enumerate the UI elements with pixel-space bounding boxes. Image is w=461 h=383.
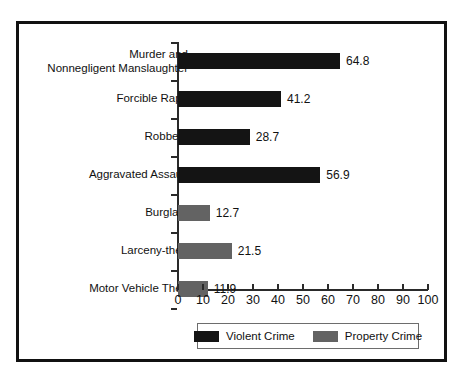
x-axis-tick bbox=[202, 284, 204, 290]
bar-category-label: Aggravated Assault bbox=[0, 168, 188, 182]
x-axis-tick bbox=[327, 284, 329, 290]
y-axis-tick bbox=[171, 80, 177, 82]
x-axis-tick bbox=[302, 284, 304, 290]
y-axis-tick bbox=[171, 232, 177, 234]
x-axis-tick bbox=[277, 284, 279, 290]
x-axis-tick bbox=[227, 284, 229, 290]
bar-row: Robbery28.7 bbox=[19, 118, 444, 156]
x-axis-tick bbox=[427, 284, 429, 290]
bar-category-label: Forcible Rape bbox=[0, 92, 188, 106]
bar-value-label: 56.9 bbox=[326, 168, 349, 182]
x-axis-tick bbox=[177, 284, 179, 290]
bar-category-label: Murder and Nonnegligent Manslaughter bbox=[0, 48, 188, 75]
bar-row: Forcible Rape41.2 bbox=[19, 80, 444, 118]
bar-violent bbox=[178, 53, 340, 69]
y-axis-tick bbox=[171, 118, 177, 120]
bar-category-label: Burglary bbox=[0, 206, 188, 220]
bar-value-label: 12.7 bbox=[216, 206, 239, 220]
chart-frame: Murder and Nonnegligent Manslaughter64.8… bbox=[16, 21, 447, 362]
bar-category-label: Larceny-theft bbox=[0, 244, 188, 258]
legend-swatch-icon bbox=[194, 331, 219, 342]
bar-category-label: Motor Vehicle Theft bbox=[0, 282, 188, 296]
bar-value-label: 41.2 bbox=[287, 92, 310, 106]
y-axis-tick bbox=[171, 308, 177, 310]
bar-row: Murder and Nonnegligent Manslaughter64.8 bbox=[19, 42, 444, 80]
bar-row: Aggravated Assault56.9 bbox=[19, 156, 444, 194]
legend-item-property: Property Crime bbox=[313, 330, 422, 342]
bar-value-label: 28.7 bbox=[256, 130, 279, 144]
bar-row: Larceny-theft21.5 bbox=[19, 232, 444, 270]
bar-violent bbox=[178, 129, 250, 145]
bar-chart-plot-area: Murder and Nonnegligent Manslaughter64.8… bbox=[19, 24, 444, 359]
legend-item-violent: Violent Crime bbox=[194, 330, 295, 342]
legend-swatch-icon bbox=[313, 331, 338, 342]
x-axis-tick bbox=[402, 284, 404, 290]
y-axis-tick bbox=[171, 42, 177, 44]
legend-label: Property Crime bbox=[345, 330, 422, 342]
bar-property bbox=[178, 243, 232, 259]
bar-value-label: 21.5 bbox=[238, 244, 261, 258]
y-axis-tick bbox=[171, 156, 177, 158]
y-axis-tick bbox=[171, 194, 177, 196]
x-axis-tick bbox=[377, 284, 379, 290]
bar-violent bbox=[178, 91, 281, 107]
x-axis-tick bbox=[252, 284, 254, 290]
legend-label: Violent Crime bbox=[226, 330, 295, 342]
bar-value-label: 64.8 bbox=[346, 54, 369, 68]
chart-legend: Violent CrimeProperty Crime bbox=[197, 323, 419, 349]
bar-property bbox=[178, 205, 210, 221]
bar-category-label: Robbery bbox=[0, 130, 188, 144]
x-axis-tick bbox=[352, 284, 354, 290]
y-axis-tick bbox=[171, 270, 177, 272]
bar-row: Burglary12.7 bbox=[19, 194, 444, 232]
bar-violent bbox=[178, 167, 320, 183]
x-axis-tick-label: 100 bbox=[413, 293, 443, 307]
